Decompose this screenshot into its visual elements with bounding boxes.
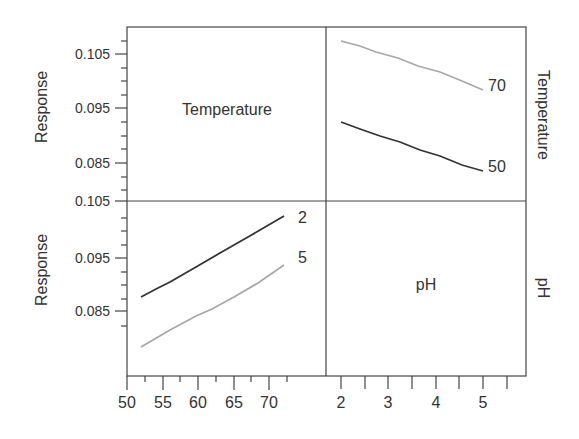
svg-text:0.095: 0.095 <box>75 250 110 266</box>
right-label-ph: pH <box>535 278 552 298</box>
svg-text:0.105: 0.105 <box>75 193 110 209</box>
svg-text:0.095: 0.095 <box>75 100 110 116</box>
x-axis-left-ticks <box>127 376 287 390</box>
series-temp-70 <box>341 41 483 90</box>
x-tick-labels-right: 2 3 4 5 <box>337 394 488 411</box>
svg-text:0.085: 0.085 <box>75 303 110 319</box>
x-axis-right-ticks <box>341 376 507 389</box>
right-label-temperature: Temperature <box>535 70 552 160</box>
x-tick-labels-left: 50 55 60 65 70 <box>118 394 278 411</box>
diagonal-label-ph: pH <box>416 276 436 293</box>
line-label-50: 50 <box>488 158 506 175</box>
svg-text:50: 50 <box>118 394 136 411</box>
series-ph-5 <box>141 265 284 347</box>
svg-text:2: 2 <box>337 394 346 411</box>
svg-text:4: 4 <box>432 394 441 411</box>
interaction-plot-matrix: 0.105 0.095 0.085 0.105 0.095 0.085 Resp… <box>0 0 579 439</box>
diagonal-label-temperature: Temperature <box>182 101 272 118</box>
svg-text:3: 3 <box>384 394 393 411</box>
y-axis-title-bottom: Response <box>33 234 50 306</box>
svg-text:70: 70 <box>260 394 278 411</box>
line-label-2: 2 <box>298 209 307 226</box>
svg-text:65: 65 <box>225 394 243 411</box>
svg-text:5: 5 <box>479 394 488 411</box>
panel-temperature-by-ph <box>141 216 284 347</box>
series-ph-2 <box>141 216 284 297</box>
y-axis-bottom-ticks <box>115 218 127 326</box>
y-axis-title-top: Response <box>33 71 50 143</box>
y-tick-labels: 0.105 0.095 0.085 0.105 0.095 0.085 <box>75 46 110 319</box>
line-label-70: 70 <box>488 77 506 94</box>
svg-text:0.085: 0.085 <box>75 155 110 171</box>
svg-text:55: 55 <box>154 394 172 411</box>
svg-text:0.105: 0.105 <box>75 46 110 62</box>
y-axis-top-ticks <box>115 41 127 201</box>
panel-ph-by-temperature <box>341 41 483 171</box>
series-temp-50 <box>341 122 483 171</box>
line-label-5: 5 <box>298 249 307 266</box>
svg-text:60: 60 <box>189 394 207 411</box>
plot-frame <box>127 27 526 376</box>
